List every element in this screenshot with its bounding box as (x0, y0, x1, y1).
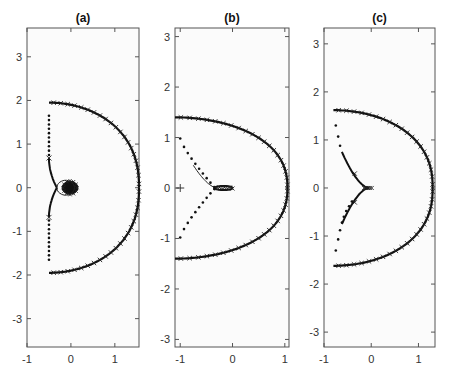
y-tick-label: 0 (16, 182, 22, 194)
dot-marker (337, 238, 340, 241)
dot-marker (48, 114, 51, 117)
dot-marker (48, 224, 51, 227)
y-tick-label: 3 (16, 51, 22, 63)
dot-marker (190, 216, 193, 219)
dot-marker (48, 245, 51, 248)
dot-marker (48, 128, 51, 131)
dot-marker (183, 228, 186, 231)
panel-c: (c)-101-3-2-10123 (309, 11, 435, 365)
dot-marker (335, 124, 338, 127)
dot-marker (183, 146, 186, 149)
x-tick-label: -1 (319, 353, 329, 365)
panel-title: (a) (76, 11, 91, 25)
dot-marker (202, 201, 205, 204)
figure: (a)-101-3-2-10123 (b)-101-3-2-10123 (c)-… (0, 0, 451, 385)
y-tick-label: -1 (309, 230, 319, 242)
dot-marker (48, 141, 51, 144)
dot-marker (194, 163, 197, 166)
dot-marker (335, 249, 338, 252)
y-tick-label: 1 (313, 134, 319, 146)
dot-marker (202, 172, 205, 175)
y-tick-label: -2 (160, 283, 170, 295)
dot-marker (194, 211, 197, 214)
y-tick-label: -3 (12, 313, 22, 325)
dot-marker (48, 149, 51, 152)
x-tick-label: 1 (112, 353, 118, 365)
x-tick-label: 1 (415, 353, 421, 365)
panel-title: (c) (372, 11, 387, 25)
dot-marker (48, 241, 51, 244)
y-tick-label: 2 (164, 81, 170, 93)
x-tick-label: 0 (229, 353, 235, 365)
plot-area (324, 28, 435, 347)
y-tick-label: -1 (12, 225, 22, 237)
dot-marker (48, 154, 51, 157)
dot-marker (337, 135, 340, 138)
y-tick-label: -2 (309, 278, 319, 290)
dot-marker (339, 229, 342, 232)
dot-marker (190, 157, 193, 160)
y-tick-label: 3 (313, 38, 319, 50)
y-tick-label: -3 (160, 333, 170, 345)
y-tick-label: -2 (12, 269, 22, 281)
dot-marker (186, 152, 189, 155)
y-tick-label: 3 (164, 31, 170, 43)
dot-marker (205, 177, 208, 180)
dot-marker (198, 206, 201, 209)
dot-marker (48, 219, 51, 222)
dot-marker (205, 197, 208, 200)
dot-marker (339, 144, 342, 147)
y-tick-label: 2 (16, 94, 22, 106)
dot-marker (48, 123, 51, 126)
plot-area (27, 28, 139, 347)
y-tick-label: 0 (164, 182, 170, 194)
panel-title: (b) (224, 11, 239, 25)
dot-marker (48, 232, 51, 235)
x-tick-label: 1 (282, 353, 288, 365)
dot-marker (48, 258, 51, 261)
dot-marker (48, 254, 51, 257)
y-tick-label: 2 (313, 86, 319, 98)
y-tick-label: 1 (164, 132, 170, 144)
dot-marker (209, 192, 212, 195)
x-tick-label: 0 (368, 353, 374, 365)
dot-marker (48, 228, 51, 231)
x-tick-label: 0 (68, 353, 74, 365)
dot-marker (48, 119, 51, 122)
y-tick-label: -3 (309, 326, 319, 338)
dot-marker (209, 181, 212, 184)
x-tick-label: -1 (175, 353, 185, 365)
dot-marker (48, 136, 51, 139)
x-tick-label: -1 (22, 353, 32, 365)
dot-marker (48, 237, 51, 240)
dot-marker (48, 250, 51, 253)
y-tick-label: -1 (160, 232, 170, 244)
dot-marker (48, 132, 51, 135)
y-tick-label: 1 (16, 138, 22, 150)
panel-a: (a)-101-3-2-10123 (12, 11, 141, 365)
dot-marker (48, 145, 51, 148)
dot-marker (186, 222, 189, 225)
panel-b: (b)-101-3-2-10123 (160, 11, 289, 365)
y-tick-label: 0 (313, 182, 319, 194)
dot-marker (179, 236, 182, 239)
dot-marker (198, 168, 201, 171)
dot-marker (179, 137, 182, 140)
